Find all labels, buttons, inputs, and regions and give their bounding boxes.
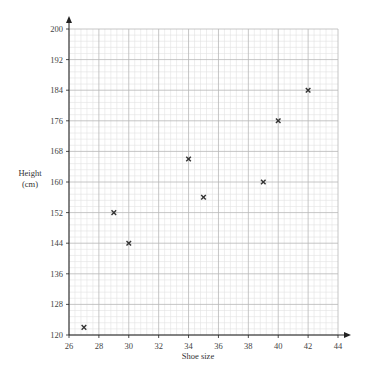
y-tick-label: 168: [50, 146, 63, 156]
y-tick-label: 152: [50, 208, 63, 218]
x-tick-label: 28: [95, 341, 104, 351]
x-axis-title: Shoe size: [182, 351, 215, 361]
x-tick-label: 32: [154, 341, 163, 351]
x-tick-label: 34: [184, 341, 193, 351]
x-axis-ticks: 26283032343638404244: [65, 335, 343, 351]
y-tick-label: 192: [50, 55, 63, 65]
x-tick-label: 38: [244, 341, 253, 351]
y-tick-label: 128: [50, 299, 63, 309]
y-axis-title: Height: [18, 168, 42, 178]
x-tick-label: 26: [65, 341, 74, 351]
x-tick-label: 44: [334, 341, 343, 351]
y-tick-label: 200: [50, 24, 63, 34]
y-tick-label: 120: [50, 330, 63, 340]
y-axis-arrow-icon: [66, 16, 72, 23]
scatter-chart: 120128136144152160168176184192200 262830…: [0, 0, 365, 381]
y-tick-label: 160: [50, 177, 63, 187]
x-axis-arrow-icon: [344, 332, 351, 338]
data-point-cross-icon: [201, 195, 206, 200]
grid-major: [69, 29, 338, 335]
y-axis-unit: (cm): [22, 179, 38, 189]
x-tick-label: 40: [274, 341, 283, 351]
data-points: [82, 88, 311, 330]
x-tick-label: 36: [214, 341, 223, 351]
x-tick-label: 42: [304, 341, 313, 351]
y-tick-label: 176: [50, 116, 63, 126]
x-tick-label: 30: [125, 341, 134, 351]
y-tick-label: 144: [50, 238, 64, 248]
y-tick-label: 136: [50, 269, 63, 279]
y-axis-ticks: 120128136144152160168176184192200: [50, 24, 69, 340]
y-tick-label: 184: [50, 85, 64, 95]
